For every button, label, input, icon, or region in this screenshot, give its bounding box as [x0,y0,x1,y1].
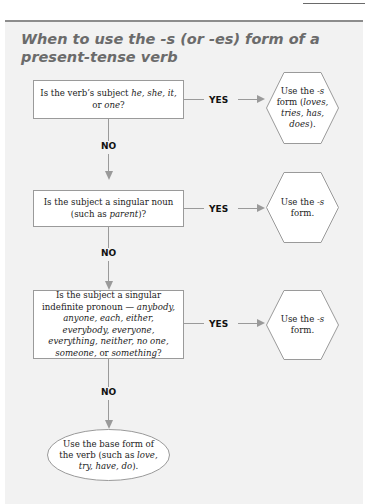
no-connector-2a [108,227,109,248]
yes-connector-2b [238,208,259,209]
question-text-2: Is the subject a singular noun (such as … [40,197,177,220]
question-box-1: Is the verb’s subject he, she, it, or on… [33,80,184,119]
yes-connector-3b [238,323,259,324]
arrow-right-icon [257,319,265,327]
no-connector-2b [108,261,109,282]
flowchart-title: When to use the -s (or -es) form of a pr… [21,30,341,66]
page-tab-marker [303,3,365,4]
question-text-3: Is the subject a singular indefinite pro… [39,290,178,359]
outcome-hexagon-1: Use the -s form (loves, tries, has, does… [266,72,339,144]
question-text-1: Is the verb’s subject he, she, it, or on… [40,88,177,111]
arrow-down-icon [105,281,113,290]
no-connector-3b [108,400,109,422]
outcome-text-2: Use the -s form. [276,197,329,219]
yes-label-3: YES [209,319,228,329]
no-label-3: NO [101,387,116,397]
final-outcome-ellipse: Use the base form of the verb (such as l… [47,429,170,481]
arrow-down-icon [105,420,113,429]
outcome-hexagon-2: Use the -s form. [266,172,339,243]
question-box-3: Is the subject a singular indefinite pro… [33,290,184,359]
outcome-hexagon-3: Use the -s form. [266,290,339,360]
no-label-2: NO [101,248,116,258]
outcome-text-3: Use the -s form. [276,314,329,336]
yes-connector-1a [184,99,204,100]
no-connector-3a [108,359,109,387]
question-box-2: Is the subject a singular noun (such as … [33,190,184,227]
no-connector-1b [108,154,109,172]
yes-connector-3a [184,323,204,324]
yes-label-1: YES [209,95,228,105]
yes-label-2: YES [209,204,228,214]
yes-connector-1b [238,99,259,100]
no-connector-1a [108,119,109,141]
outcome-text-1: Use the -s form (loves, tries, has, does… [274,86,331,130]
yes-connector-2a [184,208,204,209]
arrow-right-icon [257,204,265,212]
arrow-right-icon [257,95,265,103]
no-label-1: NO [101,141,116,151]
arrow-down-icon [105,171,113,180]
final-outcome-text: Use the base form of the verb (such as l… [55,439,162,472]
